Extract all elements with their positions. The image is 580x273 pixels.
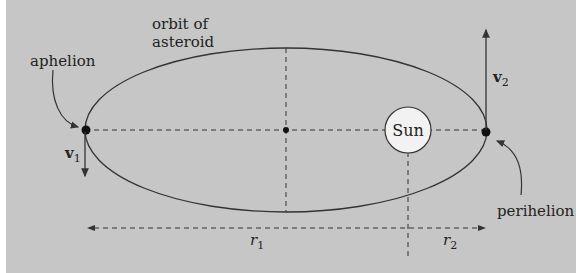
aphelion-pointer-arrow [52, 70, 78, 127]
v2-label: v2 [492, 68, 509, 89]
r1-label: r1 [250, 231, 264, 252]
right-arrowhead [478, 225, 486, 231]
orbit-label-line2: asteroid [152, 33, 215, 51]
orbit-label-line1: orbit of [152, 15, 209, 33]
perihelion-pointer-arrow [497, 141, 522, 195]
aphelion-label: aphelion [30, 52, 96, 70]
orbit-diagram: Sun orbit of asteroid aphelion perihelio… [0, 0, 580, 273]
v1-label: v1 [64, 144, 81, 165]
r2-label: r2 [443, 231, 457, 252]
orbit-center-dot [283, 127, 289, 133]
left-arrowhead [87, 225, 95, 231]
perihelion-label: perihelion [497, 202, 575, 220]
sun-label: Sun [392, 121, 424, 140]
aphelion-point [82, 126, 91, 135]
